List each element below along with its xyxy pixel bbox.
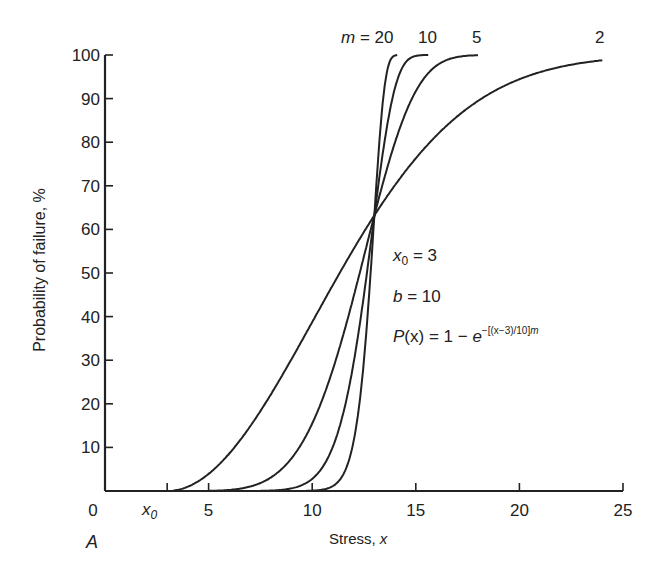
formula-lhs: (x) = 1 − bbox=[404, 327, 472, 346]
x-axis-title-text: Stress, bbox=[329, 530, 380, 547]
y-tick-label: 60 bbox=[81, 220, 100, 239]
formula-e: e bbox=[472, 327, 481, 346]
y-axis-title: Probability of failure, % bbox=[31, 188, 49, 352]
y-tick-label: 50 bbox=[81, 264, 100, 283]
annotation-x0: x0 = 3 bbox=[393, 246, 437, 268]
formula-P: P bbox=[393, 327, 404, 346]
formula-exponent: −[(x−3)/10]m bbox=[482, 325, 539, 336]
x-tick-label: 20 bbox=[510, 501, 529, 520]
x-tick-x0: x0 bbox=[142, 500, 157, 522]
y-tick-label: 40 bbox=[81, 308, 100, 327]
m20-value: = 20 bbox=[355, 28, 393, 47]
x-axis-title-var: x bbox=[380, 530, 388, 547]
y-tick-label: 70 bbox=[81, 177, 100, 196]
x-tick-label: 25 bbox=[614, 501, 633, 520]
m-symbol: m bbox=[341, 28, 355, 47]
y-tick-label: 80 bbox=[81, 133, 100, 152]
formula-exponent-body: −[(x−3)/10] bbox=[482, 325, 530, 336]
x-tick-label: 0 bbox=[88, 501, 97, 520]
panel-label: A bbox=[86, 532, 98, 553]
weibull-chart: 1020304050607080901000510152025 bbox=[0, 0, 655, 568]
y-tick-label: 90 bbox=[81, 90, 100, 109]
x0-tick-symbol: x bbox=[142, 500, 151, 519]
x0-value: = 3 bbox=[408, 246, 437, 265]
curve-m5 bbox=[173, 55, 478, 491]
y-tick-label: 100 bbox=[72, 46, 100, 65]
b-value: = 10 bbox=[402, 287, 440, 306]
x-tick-label: 5 bbox=[204, 501, 213, 520]
curve-label-m20: m = 20 bbox=[341, 28, 393, 48]
curve-label-m5: 5 bbox=[472, 28, 481, 48]
curve-label-m10: 10 bbox=[418, 28, 437, 48]
curve-label-m2: 2 bbox=[595, 28, 604, 48]
x-tick-label: 15 bbox=[406, 501, 425, 520]
curve-m20 bbox=[173, 55, 397, 491]
y-tick-label: 30 bbox=[81, 351, 100, 370]
x-tick-label: 10 bbox=[303, 501, 322, 520]
x0-tick-subscript: 0 bbox=[151, 508, 158, 522]
formula-exponent-m: m bbox=[530, 325, 538, 336]
annotation-b: b = 10 bbox=[393, 287, 441, 307]
x0-symbol: x bbox=[393, 246, 402, 265]
y-tick-label: 20 bbox=[81, 395, 100, 414]
annotation-formula: P(x) = 1 − e−[(x−3)/10]m bbox=[393, 325, 539, 347]
curve-m10 bbox=[173, 55, 428, 491]
y-tick-label: 10 bbox=[81, 438, 100, 457]
x-axis-title: Stress, x bbox=[329, 530, 387, 547]
